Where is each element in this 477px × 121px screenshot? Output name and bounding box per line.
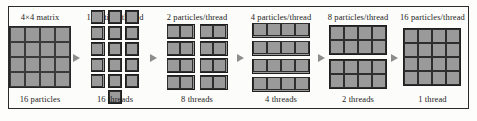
particle-cell [281,23,295,36]
thread-block-group [159,23,235,91]
thread-block [125,42,139,56]
particle-cell [418,29,432,43]
particle-cell [267,41,281,54]
particle-cell [126,27,138,39]
particle-cell [330,60,344,74]
thread-block [252,41,310,56]
thread-block [200,75,228,90]
matrix-cell [55,42,70,57]
particle-cell [126,59,138,71]
particle-cell [109,59,121,71]
stage-16-particles-per-thread: 16 particles/thread 1 thread [400,7,465,108]
thread-block [108,10,122,24]
particle-cell [167,25,180,38]
stage-4-top-label: 8 particles/thread [328,12,389,22]
particle-cell [358,40,372,54]
particle-cell [372,60,386,74]
stage-5-bottom-label: 1 thread [418,94,446,104]
thread-block-group [401,28,463,86]
matrix-cell [55,57,70,72]
particle-cell [295,77,309,90]
particle-cell [446,43,460,57]
matrix-cell [10,27,25,42]
particle-cell [372,26,386,40]
particle-cell [446,57,460,71]
particle-cell [253,41,267,54]
matrix-cell [55,27,70,42]
particle-cell [200,59,213,72]
thread-block-group [246,21,316,93]
particle-cell [91,75,103,87]
matrix-cell [40,57,55,72]
thread-block [252,23,310,38]
matrix-cell [40,42,55,57]
right-arrow-icon [73,54,80,62]
particle-cell [344,40,358,54]
particle-cell [295,23,309,36]
thread-block [108,26,122,40]
right-arrow-icon [318,54,325,62]
particle-cell [446,71,460,85]
particle-cell [404,43,418,57]
stage-1-bottom-label: 16 threads [97,94,133,104]
matrix-cell [25,72,40,87]
stage-3-bottom-label: 4 threads [265,94,297,104]
particle-matrix [9,26,71,88]
particle-cell [330,40,344,54]
particle-cell [358,74,372,88]
stage-3-grid [246,22,316,92]
particle-cell [109,43,121,55]
thread-block [91,58,105,72]
particle-cell [404,57,418,71]
particle-cell [267,77,281,90]
particle-cell [91,43,103,55]
thread-block [167,24,195,39]
stage-matrix-top-label: 4×4 matrix [21,12,60,22]
particle-cell [109,11,121,23]
particle-cell [213,25,226,38]
particle-cell [200,25,213,38]
thread-block [329,25,387,55]
thread-block [91,26,105,40]
particle-cell [404,29,418,43]
particle-cell [330,74,344,88]
stage-matrix: 4×4 matrix [9,7,71,108]
thread-block [125,10,139,24]
right-arrow-icon [150,54,157,62]
thread-block [91,74,105,88]
arrow-1-wrap [71,7,82,108]
right-arrow-icon [237,54,244,62]
particle-cell [91,27,103,39]
matrix-cell [40,27,55,42]
particle-cell [432,57,446,71]
thread-block [125,74,139,88]
particle-cell [295,41,309,54]
stage-5-grid [401,22,463,92]
thread-block [200,58,228,73]
matrix-cell [55,72,70,87]
thread-block [252,59,310,74]
stage-8-particles-per-thread: 8 particles/thread 2 threads [327,7,389,108]
particle-cell [180,25,193,38]
thread-block [91,42,105,56]
particle-cell [281,41,295,54]
particle-cell [180,76,193,89]
thread-block [108,58,122,72]
particle-cell [404,71,418,85]
particle-cell [418,57,432,71]
particle-cell [180,42,193,55]
thread-block [108,74,122,88]
thread-block [91,10,105,24]
particle-cell [126,75,138,87]
particle-cell [267,59,281,72]
particle-cell [446,29,460,43]
figure-container: 4×4 matrix [0,0,477,121]
particle-cell [418,71,432,85]
stage-4-particles-per-thread: 4 particles/thread 4 threads [246,7,316,108]
particle-cell [281,77,295,90]
thread-block-group [82,9,148,105]
particle-cell [167,59,180,72]
particle-cell [267,23,281,36]
particle-cell [330,26,344,40]
particle-cell [344,60,358,74]
